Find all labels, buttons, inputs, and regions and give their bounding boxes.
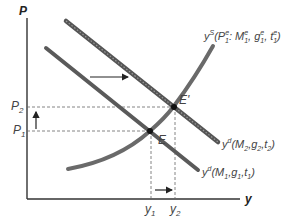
y1-label: y1 — [144, 202, 155, 218]
point-e-prime-label: E' — [179, 93, 190, 107]
point-e-prime — [171, 104, 177, 110]
p1-label: P1 — [13, 123, 25, 139]
point-e — [147, 128, 153, 134]
adas-diagram: P y E E' P2 P1 y1 y2 yS(Pe1: Me1, ge1, t… — [0, 0, 302, 219]
x-axis-label: y — [244, 192, 253, 206]
y-axis-label: P — [19, 4, 28, 18]
y2-label: y2 — [169, 202, 181, 218]
demand-new-label: yd(M2,g2,t2) — [221, 137, 275, 152]
p2-label: P2 — [11, 99, 24, 115]
supply-curve — [68, 46, 213, 169]
point-e-label: E — [158, 133, 167, 147]
demand-old-label: yd(M1,g1,t1) — [201, 165, 255, 180]
supply-curve-label: yS(Pe1: Me1, ge1, te1) — [203, 29, 281, 44]
